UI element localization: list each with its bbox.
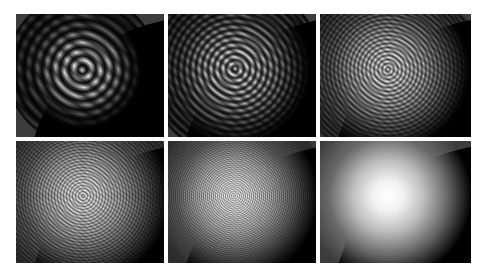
specular-highlight	[320, 141, 471, 263]
surface-texture	[168, 141, 316, 263]
panel-3	[320, 14, 471, 137]
surface-texture	[16, 141, 164, 263]
panel-5	[168, 141, 316, 263]
surface-texture	[168, 14, 316, 137]
panel-6	[320, 141, 471, 263]
surface-texture	[320, 14, 471, 137]
panel-4	[16, 141, 164, 263]
panel-1	[16, 14, 164, 137]
panel-2	[168, 14, 316, 137]
surface-texture	[16, 14, 159, 137]
